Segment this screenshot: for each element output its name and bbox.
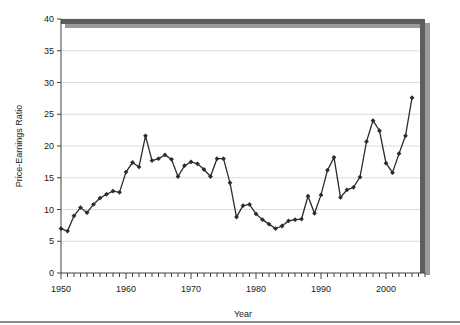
y-tick-label: 15 xyxy=(44,173,54,183)
x-tick-label: 1950 xyxy=(51,284,71,294)
x-tick-label: 2000 xyxy=(376,284,396,294)
y-tick-label: 35 xyxy=(44,46,54,56)
plot-frame-top xyxy=(61,19,425,24)
plot-frame-right xyxy=(420,19,425,273)
y-tick-label: 25 xyxy=(44,109,54,119)
y-tick-label: 20 xyxy=(44,141,54,151)
x-tick-label: 1960 xyxy=(116,284,136,294)
y-axis-ticks: 0510152025303540 xyxy=(44,14,61,278)
x-axis-ticks: 195019601970198019902000 xyxy=(51,273,425,294)
y-tick-label: 40 xyxy=(44,14,54,24)
x-tick-label: 1990 xyxy=(311,284,331,294)
x-tick-label: 1970 xyxy=(181,284,201,294)
y-axis-title: Price-Earnings Ratio xyxy=(14,105,24,188)
chart-figure: 0510152025303540 19501960197019801990200… xyxy=(0,0,460,325)
x-axis-title: Year xyxy=(234,309,252,319)
frame-shadow-right xyxy=(425,23,430,275)
x-tick-label: 1980 xyxy=(246,284,266,294)
y-tick-label: 5 xyxy=(49,236,54,246)
y-tick-label: 30 xyxy=(44,78,54,88)
price-earnings-ratio-line-chart: 0510152025303540 19501960197019801990200… xyxy=(0,0,460,325)
y-tick-label: 10 xyxy=(44,205,54,215)
y-tick-label: 0 xyxy=(49,268,54,278)
